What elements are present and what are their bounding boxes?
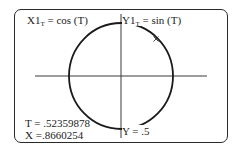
x1t-equation-label: X1T = cos (T) — [27, 14, 88, 26]
trace-y-value: Y = .5 — [122, 125, 151, 137]
y1t-equation-label: Y1T = sin (T) — [122, 14, 182, 26]
trace-t-value: T = .52359878 — [25, 117, 90, 129]
trace-x-value: X =.8660254 — [25, 129, 83, 141]
